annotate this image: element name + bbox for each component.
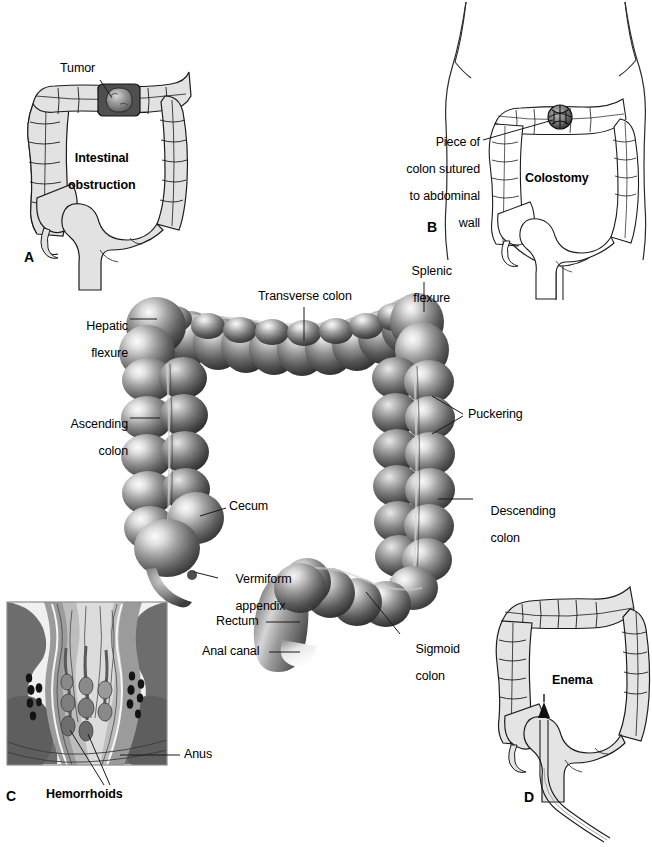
caption-hemorrhoids: Hemorrhoids — [46, 788, 123, 802]
panel-letter-d: D — [524, 789, 534, 805]
label-cecum: Cecum — [229, 500, 268, 514]
panel-letter-a: A — [24, 249, 34, 265]
panel-c-artwork — [7, 602, 167, 767]
caption-intestinal-obstruction: Intestinal obstruction — [50, 138, 140, 206]
panel-letter-c: C — [6, 788, 16, 804]
label-puckering: Puckering — [468, 408, 523, 422]
label-line: Descending — [491, 504, 556, 518]
stoma-icon — [548, 105, 572, 129]
caption-colostomy: Colostomy — [525, 172, 589, 186]
caption-line: Intestinal — [75, 151, 129, 165]
anatomy-figure: Tumor Intestinal obstruction A Piece of … — [0, 0, 652, 847]
label-descending-colon: Descending colon — [477, 491, 556, 559]
label-line: Splenic — [412, 264, 452, 278]
label-tumor: Tumor — [60, 62, 95, 76]
descending-colon-segment — [372, 357, 455, 582]
label-line: colon — [491, 531, 520, 545]
label-line: appendix — [236, 599, 286, 613]
label-ascending-colon: Ascending colon — [46, 404, 128, 472]
label-hepatic-flexure: Hepatic flexure — [62, 306, 128, 374]
label-line: flexure — [91, 346, 128, 360]
label-anal-canal: Anal canal — [202, 645, 259, 659]
panel-a-sigmoid-rectum — [62, 204, 163, 290]
label-line: colon — [99, 444, 128, 458]
label-line: colon — [416, 669, 445, 683]
label-line: Hepatic — [86, 319, 128, 333]
label-line: Sigmoid — [416, 642, 460, 656]
label-line: flexure — [413, 291, 450, 305]
caption-line: obstruction — [68, 178, 136, 192]
panel-d-artwork — [496, 587, 649, 842]
panel-b-colon — [489, 99, 638, 299]
label-line: wall — [459, 216, 480, 230]
label-anus: Anus — [184, 748, 212, 762]
panel-a-descending-colon — [157, 96, 188, 230]
label-line: Ascending — [71, 417, 128, 431]
label-rectum: Rectum — [216, 615, 258, 629]
label-line: colon sutured — [406, 162, 480, 176]
label-line: Piece of — [436, 135, 480, 149]
label-sigmoid-colon: Sigmoid colon — [402, 629, 460, 697]
label-splenic-flexure: Splenic flexure — [396, 251, 454, 319]
label-transverse-colon: Transverse colon — [258, 290, 352, 304]
panel-a-tumor — [98, 84, 140, 116]
panel-letter-b: B — [427, 219, 437, 235]
label-line: to abdominal — [410, 189, 480, 203]
label-line: Vermiform — [236, 572, 292, 586]
caption-enema: Enema — [552, 674, 593, 688]
